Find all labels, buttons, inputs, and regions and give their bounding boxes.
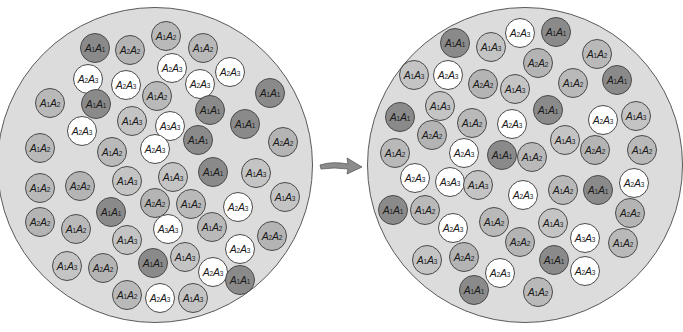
genotype-a1a2: A1A2 [517, 142, 547, 172]
genotype-a1a1: A1A1 [459, 275, 489, 305]
genotype-a1a1: A1A1 [533, 95, 563, 125]
genotype-a1a1: A1A1 [225, 265, 255, 295]
genotype-a1a1: A1A1 [198, 157, 228, 187]
genotype-a1a3: A1A3 [112, 225, 142, 255]
genotype-a2a3: A2A3 [505, 18, 535, 48]
genotype-a2a2: A2A2 [25, 207, 55, 237]
right-arrow-icon [318, 155, 364, 177]
genotype-a1a3: A1A3 [425, 91, 455, 121]
genotype-a1a3: A1A3 [112, 166, 142, 196]
genotype-a2a3: A2A3 [145, 283, 175, 313]
genotype-a1a2: A1A2 [188, 33, 218, 63]
genotype-a1a3: A1A3 [399, 60, 429, 90]
genotype-a1a1: A1A1 [378, 195, 408, 225]
genotype-a2a3: A2A3 [588, 105, 618, 135]
genotype-a1a2: A1A2 [457, 108, 487, 138]
genotype-a2a3: A2A3 [223, 192, 253, 222]
genotype-a2a2: A2A2 [615, 198, 645, 228]
genotype-a2a3: A2A3 [570, 256, 600, 286]
genotype-a2a2: A2A2 [115, 35, 145, 65]
genotype-a1a2: A1A2 [142, 81, 172, 111]
genotype-a1a1: A1A1 [96, 197, 126, 227]
genotype-a1a1: A1A1 [138, 248, 168, 278]
genotype-a2a2: A2A2 [257, 221, 287, 251]
genotype-a1a3: A1A3 [178, 283, 208, 313]
genotype-a1a3: A1A3 [412, 245, 442, 275]
genotype-a2a2: A2A2 [468, 69, 498, 99]
genotype-a1a3: A1A3 [170, 242, 200, 272]
genotype-a2a2: A2A2 [580, 135, 610, 165]
genotype-a1a1: A1A1 [487, 140, 517, 170]
genotype-a1a2: A1A2 [97, 137, 127, 167]
genotype-a1a1: A1A1 [385, 102, 415, 132]
genotype-a2a3: A2A3 [485, 258, 515, 288]
genotype-a2a3: A2A3 [140, 134, 170, 164]
genotype-a1a2: A1A2 [25, 173, 55, 203]
genotype-a2a2: A2A2 [65, 171, 95, 201]
genotype-a1a2: A1A2 [608, 228, 638, 258]
genotype-a2a3: A2A3 [508, 180, 538, 210]
genotype-a2a2: A2A2 [449, 242, 479, 272]
genotype-a2a3: A2A3 [225, 234, 255, 264]
genotype-a1a3: A1A3 [158, 162, 188, 192]
genotype-a1a3: A1A3 [52, 251, 82, 281]
genotype-a1a2: A1A2 [627, 135, 657, 165]
genotype-a1a3: A1A3 [241, 158, 271, 188]
genotype-a1a3: A1A3 [550, 125, 580, 155]
genotype-a1a1: A1A1 [80, 33, 110, 63]
genotype-a1a3: A1A3 [117, 106, 147, 136]
genotype-a1a2: A1A2 [35, 88, 65, 118]
genotype-a1a1: A1A1 [583, 175, 613, 205]
genotype-a2a3: A2A3 [497, 109, 527, 139]
genotype-a3a3: A3A3 [570, 223, 600, 253]
genotype-a1a2: A1A2 [25, 133, 55, 163]
genotype-a1a2: A1A2 [197, 212, 227, 242]
genotype-a1a3: A1A3 [476, 32, 506, 62]
genotype-a1a3: A1A3 [500, 74, 530, 104]
genotype-a1a2: A1A2 [151, 21, 181, 51]
genotype-a3a3: A3A3 [435, 167, 465, 197]
genotype-a2a3: A2A3 [400, 163, 430, 193]
genotype-a1a2: A1A2 [61, 214, 91, 244]
genotype-a1a3: A1A3 [538, 208, 568, 238]
genotype-a1a1: A1A1 [539, 245, 569, 275]
genotype-a1a1: A1A1 [81, 89, 111, 119]
genotype-a1a2: A1A2 [112, 280, 142, 310]
genotype-a2a3: A2A3 [67, 116, 97, 146]
genotype-a2a3: A2A3 [449, 138, 479, 168]
genotype-a1a3: A1A3 [270, 182, 300, 212]
genotype-a1a3: A1A3 [463, 170, 493, 200]
genotype-a2a3: A2A3 [433, 60, 463, 90]
genotype-a1a1: A1A1 [195, 95, 225, 125]
genotype-a2a3: A2A3 [111, 70, 141, 100]
genotype-a1a2: A1A2 [479, 207, 509, 237]
genotype-a1a1: A1A1 [230, 109, 260, 139]
genotype-a2a2: A2A2 [268, 127, 298, 157]
genotype-a3a3: A3A3 [153, 214, 183, 244]
genotype-a2a3: A2A3 [215, 57, 245, 87]
genotype-a2a2: A2A2 [417, 120, 447, 150]
genotype-a1a1: A1A1 [440, 28, 470, 58]
genotype-a1a2: A1A2 [380, 138, 410, 168]
genotype-a2a3: A2A3 [198, 257, 228, 287]
genotype-a1a1: A1A1 [255, 78, 285, 108]
genotype-a1a1: A1A1 [602, 65, 632, 95]
genotype-a2a2: A2A2 [505, 227, 535, 257]
genotype-a2a3: A2A3 [438, 213, 468, 243]
genotype-a1a2: A1A2 [523, 277, 553, 307]
genotype-a1a1: A1A1 [541, 17, 571, 47]
genotype-a1a2: A1A2 [558, 68, 588, 98]
genotype-a2a3: A2A3 [157, 53, 187, 83]
genotype-a2a2: A2A2 [523, 48, 553, 78]
genotype-a1a2: A1A2 [410, 195, 440, 225]
genotype-a1a2: A1A2 [548, 175, 578, 205]
genotype-a1a2: A1A2 [582, 39, 612, 69]
genotype-a2a3: A2A3 [619, 168, 649, 198]
genotype-a1a3: A1A3 [621, 101, 651, 131]
genotype-a1a1: A1A1 [183, 125, 213, 155]
genotype-a2a2: A2A2 [88, 253, 118, 283]
